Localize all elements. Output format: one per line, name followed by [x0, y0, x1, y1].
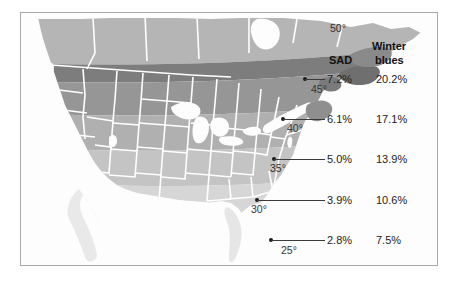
winter-blues-value-row-2: 17.1%	[376, 113, 426, 125]
winter-blues-value-row-5: 7.5%	[376, 234, 426, 246]
sad-value-row-2: 6.1%	[327, 113, 371, 125]
winter-blues-value-row-3: 13.9%	[376, 153, 426, 165]
lat-label-40: 40°	[287, 122, 303, 134]
winter-blues-value-row-4: 10.6%	[376, 194, 426, 206]
leader-line-row-2	[283, 119, 325, 120]
winter-blues-header-line2: blues	[375, 54, 404, 66]
leader-line-row-3	[274, 159, 325, 160]
winter-blues-header-line1: Winter	[372, 40, 406, 52]
leader-line-row-1	[305, 79, 325, 80]
sad-header: SAD	[329, 54, 352, 66]
lat-label-35: 35°	[270, 162, 286, 174]
annotation-layer: 50° 45° 40° 35° 30° 25° Winter blues SAD…	[0, 0, 460, 289]
lat-label-45: 45°	[311, 83, 327, 95]
lat-label-50: 50°	[330, 22, 346, 34]
leader-line-row-5	[271, 240, 325, 241]
latitude-sad-figure: 50° 45° 40° 35° 30° 25° Winter blues SAD…	[0, 0, 460, 289]
lat-label-25: 25°	[281, 244, 297, 256]
lat-label-30: 30°	[251, 203, 267, 215]
sad-value-row-3: 5.0%	[327, 153, 371, 165]
sad-value-row-4: 3.9%	[327, 194, 371, 206]
sad-value-row-1: 7.2%	[327, 73, 371, 85]
winter-blues-value-row-1: 20.2%	[376, 73, 426, 85]
leader-line-row-4	[257, 200, 325, 201]
sad-value-row-5: 2.8%	[327, 234, 371, 246]
